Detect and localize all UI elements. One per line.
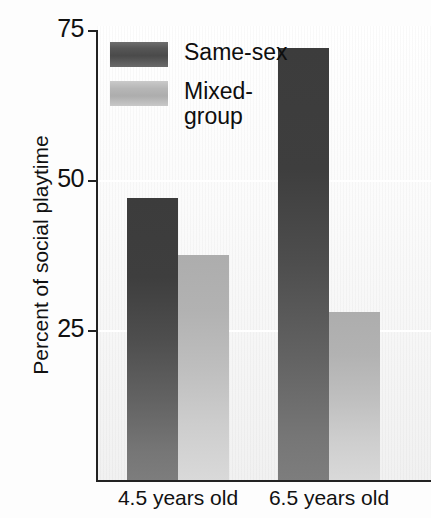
legend-item-same-sex: Same-sex (110, 40, 350, 67)
y-axis-title: Percent of social playtime (29, 115, 53, 395)
x-tick-label-6-5-years: 6.5 years old (239, 486, 419, 510)
bar-same-sex-group-1 (127, 198, 178, 480)
x-axis-line (96, 480, 431, 482)
bar-mixed-group-group-2 (329, 312, 380, 480)
y-axis-tick-25 (88, 330, 97, 332)
y-axis-line (96, 30, 98, 482)
legend-label-same-sex: Same-sex (184, 40, 288, 65)
y-axis-tick-75 (88, 30, 97, 32)
legend-label-mixed-group: Mixed- group (184, 79, 253, 129)
bar-chart-figure: 755025 Percent of social playtime Same-s… (0, 0, 431, 518)
gridline-50 (97, 180, 431, 182)
y-axis-tick-label-75: 75 (36, 14, 84, 43)
legend-item-mixed-group: Mixed- group (110, 79, 350, 129)
chart-legend: Same-sex Mixed- group (110, 40, 350, 141)
y-axis-tick-50 (88, 180, 97, 182)
legend-swatch-same-sex-icon (110, 42, 168, 67)
legend-swatch-mixed-group-icon (110, 81, 168, 106)
bar-mixed-group-group-1 (178, 255, 229, 480)
